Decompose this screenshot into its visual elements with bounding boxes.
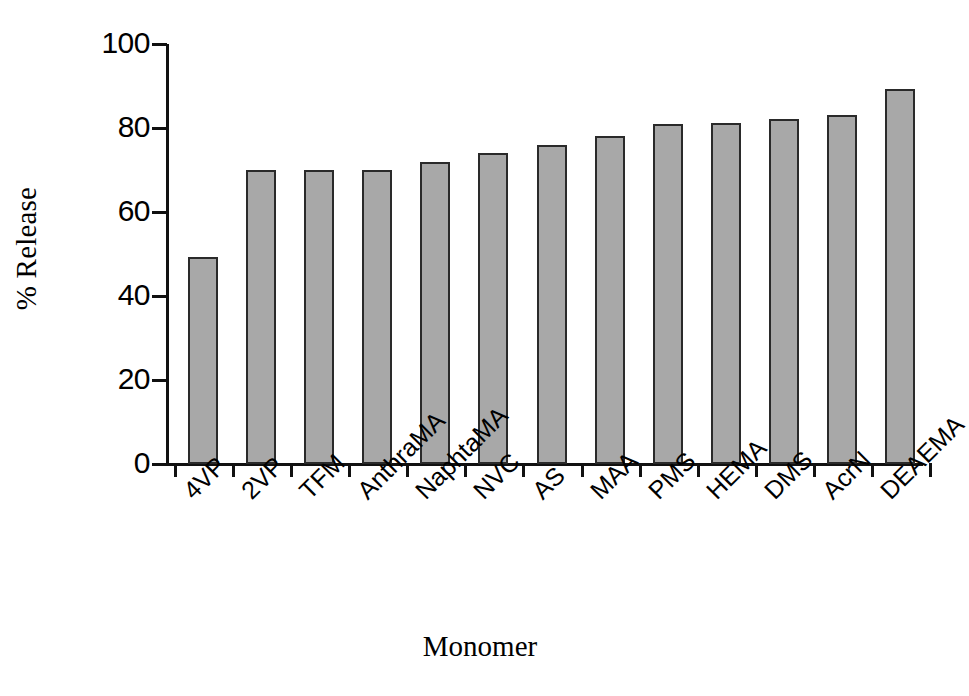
bar	[537, 145, 567, 464]
y-axis-title: % Release	[10, 169, 43, 329]
x-axis-tick-label: AS	[528, 462, 569, 503]
y-axis-tick-label: 20	[118, 364, 150, 394]
x-axis-tick	[232, 463, 235, 477]
x-axis-tick	[290, 463, 293, 477]
y-axis-tick-label: 60	[118, 196, 150, 226]
y-axis-tick-label: 40	[118, 280, 150, 310]
bar	[653, 124, 683, 464]
y-axis-tick	[152, 463, 167, 466]
bar	[362, 170, 392, 464]
bar	[188, 257, 218, 464]
x-axis-tick	[174, 463, 177, 477]
x-axis-tick	[581, 463, 584, 477]
bar	[304, 170, 334, 464]
y-axis-tick-label: 100	[101, 28, 150, 58]
bar	[827, 115, 857, 464]
y-axis-tick	[152, 211, 167, 214]
y-axis-tick-label: 0	[134, 448, 150, 478]
bar	[711, 123, 741, 464]
y-axis-tick	[152, 127, 167, 130]
x-axis-title: Monomer	[0, 630, 960, 663]
bar	[595, 136, 625, 464]
y-axis-tick	[152, 43, 167, 46]
x-axis-tick-label: 4VP	[179, 453, 230, 504]
y-axis-line	[166, 44, 169, 465]
bar	[769, 119, 799, 464]
x-axis-tick	[348, 463, 351, 477]
bar	[885, 89, 915, 464]
y-axis-tick-label: 80	[118, 112, 150, 142]
y-axis-tick	[152, 379, 167, 382]
y-axis-tick	[152, 295, 167, 298]
x-axis-tick-label: 2VP	[237, 453, 288, 504]
bar	[246, 170, 276, 464]
